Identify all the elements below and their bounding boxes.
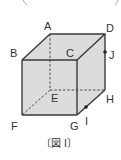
label-B: B — [10, 47, 17, 59]
label-C: C — [66, 47, 74, 59]
label-H: H — [106, 93, 114, 105]
figure-caption: 〔図 I〕 — [41, 138, 77, 149]
label-E: E — [51, 92, 58, 104]
label-A: A — [44, 20, 52, 32]
label-D: D — [106, 22, 114, 34]
label-F: F — [11, 120, 18, 132]
label-G: G — [70, 120, 79, 132]
label-J: J — [109, 49, 115, 61]
label-I: I — [85, 115, 88, 127]
front-face — [22, 60, 77, 115]
cube-diagram: A B C D J E H F G I 〔図 I〕 — [0, 0, 121, 160]
point-I-dot — [84, 105, 88, 109]
top-right-bracket-fragment — [115, 0, 118, 5]
top-left-bracket-fragment — [23, 0, 27, 5]
point-J-dot — [103, 50, 107, 54]
